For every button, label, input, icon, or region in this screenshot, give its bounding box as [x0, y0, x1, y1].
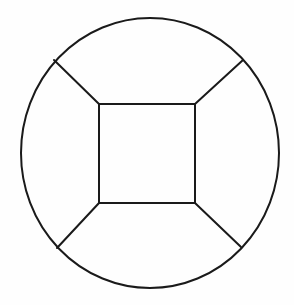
spoke-bottom-right-line: [195, 203, 241, 247]
spoke-top-left-line: [54, 60, 99, 104]
inner-square-shape: [99, 104, 195, 203]
spoke-top-right-line: [195, 60, 243, 104]
line-drawing-figure: [0, 0, 294, 305]
spoke-bottom-left-line: [57, 203, 99, 248]
figure-canvas: Circle with inscribed square and four ra…: [0, 0, 294, 305]
